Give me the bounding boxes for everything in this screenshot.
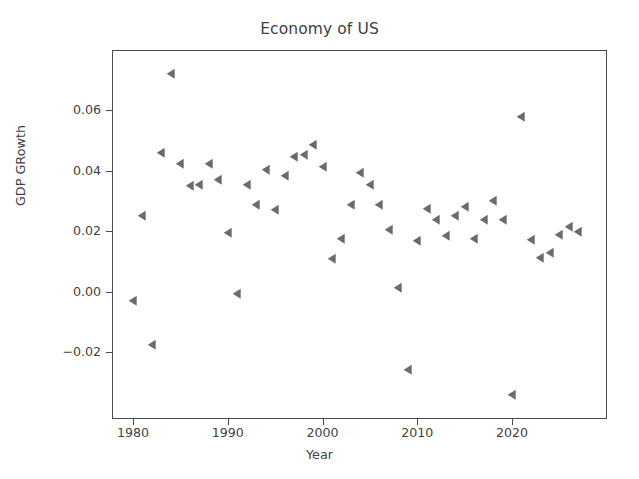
y-tick-label: 0.06 (73, 102, 101, 117)
y-tick-label: −0.02 (62, 344, 101, 359)
x-axis-label: Year (0, 447, 639, 462)
x-tick-label: 1990 (198, 425, 258, 440)
y-axis-label: GDP GRowth (13, 86, 28, 246)
x-tick-label: 1980 (103, 425, 163, 440)
x-tick-label: 2010 (387, 425, 447, 440)
plot-frame (112, 50, 607, 419)
x-tick-label: 2020 (482, 425, 542, 440)
x-tick-label: 2000 (293, 425, 353, 440)
y-tick-label: 0.04 (73, 163, 101, 178)
chart-figure: Economy of US GDP GRowth Year −0.020.000… (0, 0, 639, 479)
y-tick-label: 0.00 (73, 284, 101, 299)
chart-title: Economy of US (0, 20, 639, 38)
y-tick-label: 0.02 (73, 223, 101, 238)
